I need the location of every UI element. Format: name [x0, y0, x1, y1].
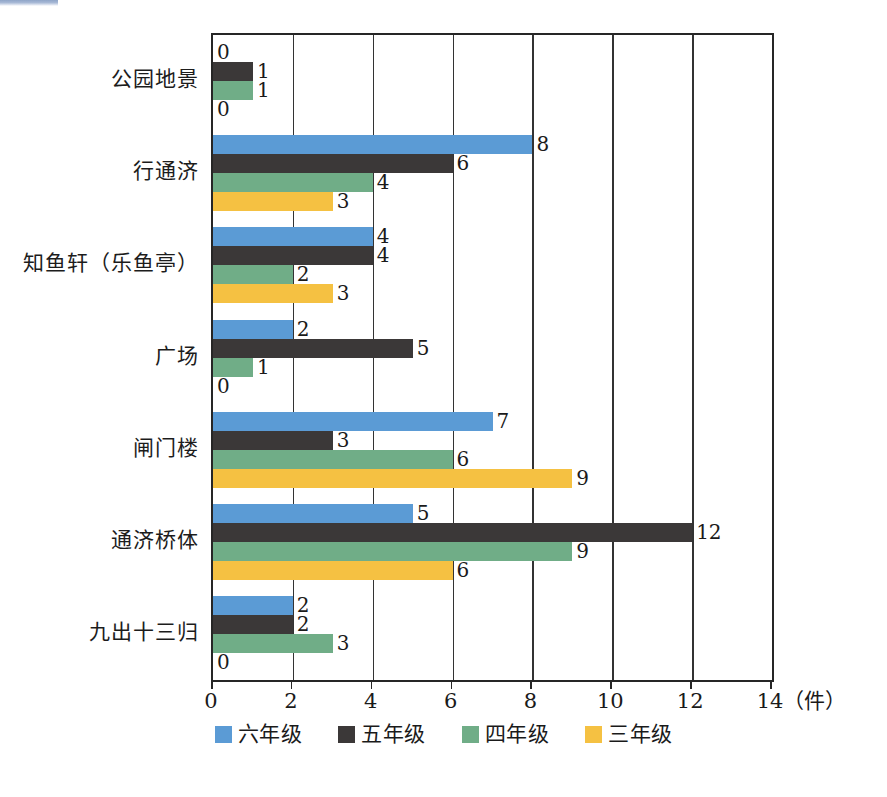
legend-label: 四年级	[485, 723, 550, 745]
bar-value-label: 0	[213, 653, 230, 672]
bar	[213, 504, 413, 523]
bar-value-label: 5	[413, 339, 430, 358]
bar-value-label: 8	[532, 135, 549, 154]
bar-value-label: 1	[253, 358, 270, 377]
x-tick-label: 6	[444, 688, 457, 714]
bar	[213, 431, 333, 450]
category-label: 闸门楼	[133, 436, 199, 460]
bar	[213, 265, 293, 284]
bar-value-label: 5	[413, 504, 430, 523]
x-tick-label: 2	[284, 688, 297, 714]
bar	[213, 412, 493, 431]
x-tick-label: 14	[757, 688, 784, 714]
x-tick-label: 10	[597, 688, 624, 714]
bar	[213, 450, 453, 469]
x-axis: 02468101214	[211, 682, 774, 716]
bar-value-label: 1	[253, 81, 270, 100]
bar-value-label: 6	[453, 154, 470, 173]
bar	[213, 320, 293, 339]
bar-value-label: 0	[213, 100, 230, 119]
x-tick-label: 4	[364, 688, 377, 714]
bar-value-label: 12	[692, 523, 721, 542]
bar	[213, 246, 373, 265]
bar-value-label: 3	[333, 431, 350, 450]
bar	[213, 469, 572, 488]
legend-item: 四年级	[462, 723, 550, 745]
bar-value-label: 2	[293, 320, 310, 339]
legend: 六年级五年级四年级三年级	[0, 723, 887, 745]
legend-label: 六年级	[238, 723, 303, 745]
bar-value-label: 9	[572, 469, 589, 488]
category-label: 行通济	[133, 159, 199, 183]
legend-item: 六年级	[215, 723, 303, 745]
category-label: 公园地景	[111, 67, 199, 91]
legend-swatch-icon	[462, 726, 479, 743]
bar	[213, 339, 413, 358]
bar-value-label: 2	[293, 615, 310, 634]
bar-value-label: 0	[213, 43, 230, 62]
bar-value-label: 3	[333, 634, 350, 653]
category-label: 通济桥体	[111, 528, 199, 552]
bar	[213, 227, 373, 246]
bar-value-label: 4	[373, 173, 390, 192]
bar	[213, 192, 333, 211]
bars-layer: 01108643442325107369512962230	[213, 35, 772, 680]
bar	[213, 154, 453, 173]
bar-chart: 公园地景行通济知鱼轩（乐鱼亭）广场闸门楼通济桥体九出十三归 0110864344…	[0, 0, 887, 797]
category-label: 九出十三归	[89, 620, 199, 644]
x-tick-label: 12	[677, 688, 704, 714]
bar-value-label: 4	[373, 246, 390, 265]
category-label: 广场	[155, 344, 199, 368]
category-axis-labels: 公园地景行通济知鱼轩（乐鱼亭）广场闸门楼通济桥体九出十三归	[0, 33, 205, 682]
x-tick-label: 8	[524, 688, 537, 714]
bar-value-label: 3	[333, 192, 350, 211]
bar-value-label: 3	[333, 284, 350, 303]
bar	[213, 596, 293, 615]
bar-value-label: 2	[293, 265, 310, 284]
bar	[213, 561, 453, 580]
bar-value-label: 0	[213, 377, 230, 396]
category-label: 知鱼轩（乐鱼亭）	[23, 251, 199, 275]
bar-value-label: 7	[493, 412, 510, 431]
x-axis-unit-label: （件）	[783, 688, 846, 714]
legend-item: 五年级	[338, 723, 426, 745]
bar	[213, 615, 293, 634]
legend-swatch-icon	[215, 726, 232, 743]
bar-value-label: 6	[453, 561, 470, 580]
bar-value-label: 6	[453, 450, 470, 469]
legend-item: 三年级	[585, 723, 673, 745]
x-tick-label: 0	[204, 688, 217, 714]
bar	[213, 62, 253, 81]
bar	[213, 542, 572, 561]
bar	[213, 523, 692, 542]
legend-swatch-icon	[585, 726, 602, 743]
legend-label: 三年级	[608, 723, 673, 745]
bar	[213, 634, 333, 653]
legend-swatch-icon	[338, 726, 355, 743]
bar-value-label: 9	[572, 542, 589, 561]
legend-label: 五年级	[361, 723, 426, 745]
bar	[213, 284, 333, 303]
bar	[213, 135, 532, 154]
